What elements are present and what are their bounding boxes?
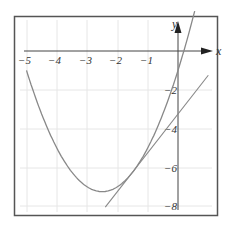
y-axis-label: y xyxy=(171,17,178,31)
x-tick-label: −1 xyxy=(140,54,153,66)
grid xyxy=(20,20,212,212)
y-tick-label: −8 xyxy=(164,200,177,212)
y-tick-label: −6 xyxy=(164,162,177,174)
chart-frame xyxy=(15,17,218,216)
x-tick-label: −2 xyxy=(109,54,122,66)
x-axis-arrow-icon xyxy=(201,48,213,55)
x-tick-label: −5 xyxy=(18,54,31,66)
x-tick-label: −3 xyxy=(79,54,92,66)
chart: x y −5 −4 −3 −2 −1 −2 −4 −6 −8 xyxy=(0,0,230,226)
x-tick-label: −4 xyxy=(48,54,61,66)
x-axis-label: x xyxy=(215,44,222,58)
tangent-line xyxy=(105,75,208,207)
